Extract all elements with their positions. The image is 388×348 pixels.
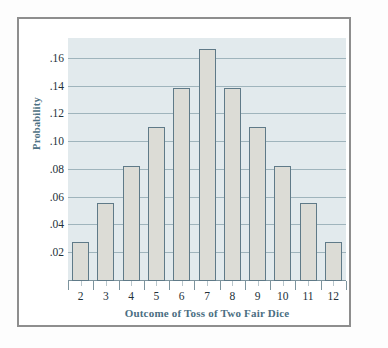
x-tick-minor	[156, 281, 157, 286]
x-tick-major	[68, 281, 69, 290]
y-tick-label: .06	[34, 192, 64, 204]
bar	[300, 203, 317, 281]
bar	[123, 166, 140, 281]
x-axis-tick-labels: 23456789101112	[68, 290, 346, 306]
y-tick-label: .04	[34, 220, 64, 232]
x-tick-minor	[308, 281, 309, 286]
bar	[72, 242, 89, 281]
x-tick-minor	[81, 281, 82, 286]
x-tick-label: 12	[318, 290, 348, 304]
x-tick-minor	[106, 281, 107, 286]
x-tick-minor	[232, 281, 233, 286]
x-tick-minor	[131, 281, 132, 286]
x-tick-major	[144, 281, 145, 290]
bar	[274, 166, 291, 281]
x-tick-major	[220, 281, 221, 290]
x-axis-title: Outcome of Toss of Two Fair Dice	[68, 307, 346, 319]
y-tick-label: .16	[34, 53, 64, 65]
x-tick-major	[169, 281, 170, 290]
x-tick-major	[245, 281, 246, 290]
y-axis-title: Probability	[31, 74, 42, 174]
x-tick-minor	[333, 281, 334, 286]
x-tick-minor	[182, 281, 183, 286]
x-tick-minor	[207, 281, 208, 286]
plot-area	[68, 38, 346, 281]
x-tick-major	[321, 281, 322, 290]
x-tick-major	[194, 281, 195, 290]
x-tick-major	[119, 281, 120, 290]
figure: .02.04.06.08.10.12.14.16 Probability 234…	[0, 0, 388, 348]
x-tick-minor	[258, 281, 259, 286]
x-tick-major	[270, 281, 271, 290]
x-tick-minor	[283, 281, 284, 286]
bar	[325, 242, 342, 281]
x-tick-major	[346, 281, 347, 290]
x-tick-major	[93, 281, 94, 290]
bar	[148, 127, 165, 281]
bar	[249, 127, 266, 281]
y-tick-label: .02	[34, 247, 64, 259]
bar	[97, 203, 114, 281]
bar	[224, 88, 241, 281]
x-tick-major	[295, 281, 296, 290]
bar	[199, 49, 216, 281]
bar	[173, 88, 190, 281]
